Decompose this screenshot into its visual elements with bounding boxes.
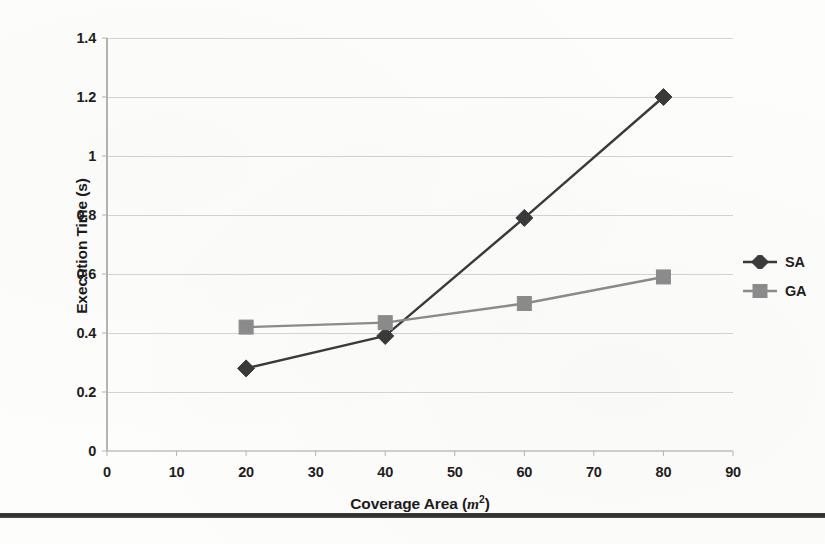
- bottom-divider-rule: [0, 513, 825, 518]
- x-tick-label: 30: [308, 464, 324, 480]
- legend-label: SA: [785, 254, 805, 270]
- x-tick-label: 70: [586, 464, 602, 480]
- x-tick-label: 10: [169, 464, 185, 480]
- y-tick-label: 1: [47, 148, 96, 164]
- axis-lines: [102, 38, 733, 456]
- x-axis-title-text: Coverage Area (: [350, 495, 467, 512]
- y-tick-label: 0.4: [47, 325, 96, 341]
- data-point-ga-60: [517, 297, 531, 311]
- chart-page: 00.20.40.60.811.21.4 0102030405060708090…: [0, 0, 825, 544]
- legend-item-sa[interactable]: SA: [742, 247, 806, 276]
- x-axis-title-close: ): [485, 495, 490, 512]
- y-tick-label: 0: [47, 443, 96, 459]
- x-tick-label: 40: [377, 464, 393, 480]
- series-lines: [238, 89, 672, 377]
- data-point-ga-80: [656, 270, 670, 284]
- data-point-sa-20: [238, 360, 255, 377]
- y-tick-label: 0.2: [47, 384, 96, 400]
- x-tick-label: 90: [725, 464, 741, 480]
- y-axis-title: Execution Time (s): [73, 178, 91, 314]
- chart-legend: SAGA: [742, 247, 806, 305]
- x-axis-unit-symbol: m: [467, 495, 479, 512]
- legend-item-ga[interactable]: GA: [742, 276, 806, 305]
- x-tick-label: 80: [656, 464, 672, 480]
- y-tick-label: 1.2: [47, 89, 96, 105]
- legend-swatch-diamond-icon: [742, 255, 778, 269]
- plot-canvas: [0, 0, 825, 544]
- legend-label: GA: [785, 283, 806, 299]
- x-tick-label: 50: [447, 464, 463, 480]
- x-axis-title: Coverage Area (m2): [107, 494, 733, 513]
- x-tick-label: 20: [238, 464, 254, 480]
- x-tick-label: 60: [516, 464, 532, 480]
- y-tick-label: 1.4: [47, 30, 96, 46]
- x-tick-label: 0: [103, 464, 111, 480]
- series-line-sa: [246, 97, 663, 368]
- gridlines: [107, 38, 733, 451]
- execution-time-line-chart: 00.20.40.60.811.21.4 0102030405060708090…: [0, 0, 825, 544]
- data-point-ga-20: [239, 320, 253, 334]
- legend-swatch-square-icon: [742, 284, 778, 298]
- data-point-ga-40: [378, 316, 392, 330]
- series-line-ga: [246, 277, 663, 327]
